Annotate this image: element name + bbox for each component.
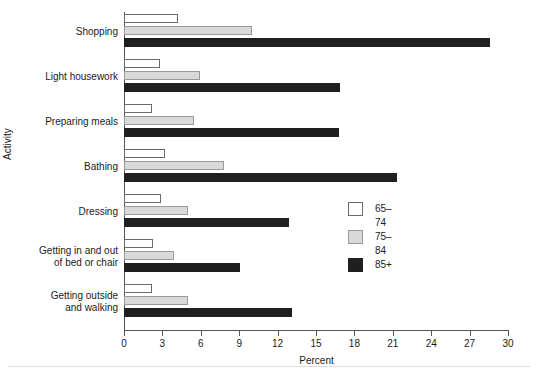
category-label: Bathing [84, 161, 118, 173]
bar-2 [124, 263, 240, 272]
legend-label: 65–74 [375, 202, 392, 230]
x-tick-label: 27 [455, 338, 485, 350]
bar-2 [124, 38, 490, 47]
legend-swatch [348, 230, 363, 244]
x-tick-label: 9 [224, 338, 254, 350]
x-tick [201, 331, 202, 336]
bar-2 [124, 308, 292, 317]
x-tick-label: 15 [301, 338, 331, 350]
x-tick-label: 0 [109, 338, 139, 350]
x-tick-label: 6 [186, 338, 216, 350]
legend-swatch [348, 202, 363, 216]
category-label: Shopping [76, 26, 118, 38]
bar-0 [124, 59, 160, 68]
bar-0 [124, 104, 152, 113]
legend-label: 85+ [375, 258, 392, 272]
bar-2 [124, 128, 339, 137]
bar-2 [124, 173, 397, 182]
x-tick [239, 331, 240, 336]
x-tick [124, 331, 125, 336]
footer-divider [8, 366, 530, 367]
bar-1 [124, 71, 200, 80]
y-axis-title: Activity [2, 128, 13, 160]
legend-swatch [348, 258, 363, 272]
bar-2 [124, 218, 289, 227]
x-tick [162, 331, 163, 336]
category-label: Dressing [79, 206, 118, 218]
x-tick [393, 331, 394, 336]
bar-0 [124, 284, 152, 293]
x-tick [354, 331, 355, 336]
bar-1 [124, 296, 188, 305]
legend-label: 75–84 [375, 230, 392, 258]
x-tick-label: 30 [493, 338, 523, 350]
bar-1 [124, 26, 252, 35]
x-tick-label: 12 [263, 338, 293, 350]
bar-0 [124, 149, 165, 158]
x-tick-label: 3 [147, 338, 177, 350]
bar-2 [124, 83, 340, 92]
bar-1 [124, 206, 188, 215]
bar-1 [124, 116, 194, 125]
category-label: Getting in and out of bed or chair [39, 245, 118, 269]
bar-0 [124, 14, 178, 23]
x-tick-label: 18 [339, 338, 369, 350]
x-axis-title: Percent [124, 355, 509, 366]
x-tick [508, 331, 509, 336]
bar-0 [124, 194, 161, 203]
category-label: Preparing meals [45, 116, 118, 128]
bar-0 [124, 239, 153, 248]
bar-1 [124, 161, 224, 170]
category-label: Light housework [45, 71, 118, 83]
x-tick [278, 331, 279, 336]
x-tick-label: 24 [416, 338, 446, 350]
x-tick [470, 331, 471, 336]
x-tick [431, 331, 432, 336]
x-tick-label: 21 [378, 338, 408, 350]
x-tick [316, 331, 317, 336]
category-label: Getting outside and walking [51, 290, 118, 314]
bar-1 [124, 251, 174, 260]
bar-chart: Activity 036912151821242730 ShoppingLigh… [0, 0, 538, 378]
